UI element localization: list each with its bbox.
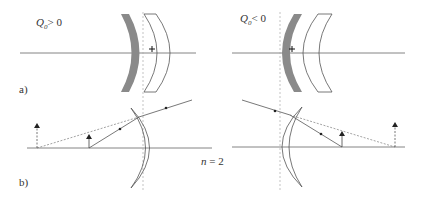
center-marker bbox=[149, 46, 155, 52]
n-symbol: n bbox=[201, 155, 207, 167]
relation: < 0 bbox=[251, 12, 265, 24]
n-value: = 2 bbox=[209, 155, 223, 167]
virtual-ray bbox=[37, 117, 139, 148]
light-ray bbox=[242, 100, 342, 147]
virtual-ray bbox=[290, 115, 395, 147]
panel-b-right bbox=[232, 100, 405, 192]
arrowhead-icon bbox=[34, 123, 40, 128]
arrowhead-icon bbox=[392, 122, 398, 127]
relation: > 0 bbox=[47, 16, 61, 28]
arrowhead-icon bbox=[86, 134, 92, 139]
q0-positive-label: Q0> 0 bbox=[36, 16, 62, 31]
panel-b-label: b) bbox=[19, 176, 28, 188]
panel-b-left bbox=[27, 100, 212, 192]
optics-diagram bbox=[0, 0, 424, 203]
q-symbol: Q bbox=[36, 16, 44, 28]
refractive-index-label: n = 2 bbox=[201, 155, 224, 167]
q-symbol: Q bbox=[240, 12, 248, 24]
q0-negative-label: Q0< 0 bbox=[240, 12, 266, 27]
panel-a-label: a) bbox=[19, 83, 28, 95]
